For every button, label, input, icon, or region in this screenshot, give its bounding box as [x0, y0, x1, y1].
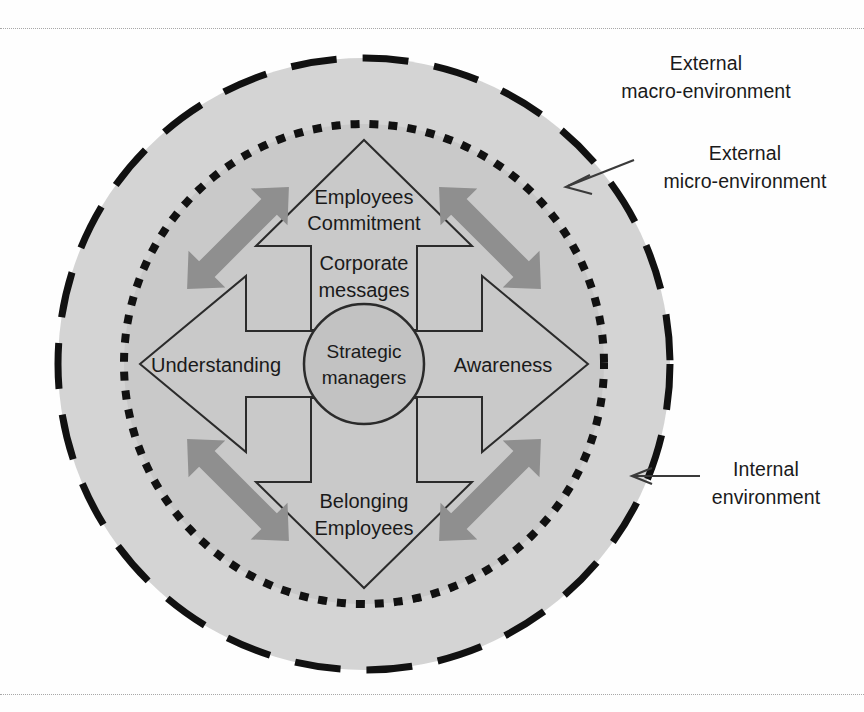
- center-label-line1: Strategic: [327, 341, 402, 362]
- center-label-line2: managers: [322, 367, 407, 388]
- arrow-right-head-line1: Awareness: [454, 354, 553, 376]
- strategic-communication-diagram: Employees Commitment Corporate messages …: [0, 0, 864, 712]
- arrow-up-shaft-line1: Corporate: [320, 252, 409, 274]
- callout-external-macro-line1: External: [670, 52, 742, 74]
- callout-external-micro-line1: External: [709, 142, 781, 164]
- callout-internal-line1: Internal: [733, 458, 799, 480]
- arrow-up-head-line1: Employees: [315, 186, 414, 208]
- arrow-up-head-line2: Commitment: [307, 212, 421, 234]
- arrow-down-head-line1: Belonging: [320, 490, 409, 512]
- callout-internal-line2: environment: [712, 486, 821, 508]
- callout-external-macro-line2: macro-environment: [621, 80, 791, 102]
- arrow-left-head-line1: Understanding: [151, 354, 281, 376]
- callout-external-micro-line2: micro-environment: [663, 170, 827, 192]
- strategic-managers-circle: [304, 304, 424, 424]
- page-canvas: Employees Commitment Corporate messages …: [0, 0, 864, 712]
- arrow-down-head-line2: Employees: [315, 517, 414, 539]
- arrow-up-shaft-line2: messages: [318, 279, 409, 301]
